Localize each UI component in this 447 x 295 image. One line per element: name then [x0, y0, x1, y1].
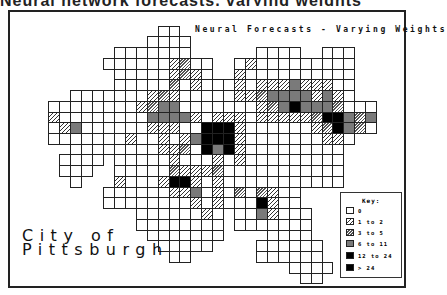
legend-swatch-solid-black-icon [346, 264, 354, 271]
grid-cell [343, 133, 355, 145]
grid-cell [92, 154, 104, 166]
legend-label: > 24 [358, 265, 375, 271]
legend-swatch-light-hatch-icon [346, 218, 354, 225]
legend-swatch-dense-hatch-icon [346, 229, 354, 236]
legend-item-1: 1 to 2 [346, 217, 384, 226]
grid-cell [212, 230, 224, 242]
legend-item-0: 0 [346, 206, 362, 215]
grid-cell [179, 251, 191, 263]
legend-label: 1 to 2 [358, 219, 384, 225]
grid-cell [365, 122, 377, 134]
legend-swatch-white-icon [346, 207, 354, 214]
map-title: Neural Forecasts - Varying Weights [195, 25, 447, 34]
grid-cell [332, 176, 344, 188]
legend-label: 6 to 11 [358, 241, 388, 247]
legend-key: Key: 0 1 to 2 3 to 5 6 to 11 12 to 24 > … [340, 192, 402, 278]
grid-cell [201, 240, 213, 252]
grid-cell [322, 262, 334, 274]
legend-label: 0 [358, 208, 362, 214]
legend-item-5: > 24 [346, 263, 375, 272]
legend-item-3: 6 to 11 [346, 239, 388, 248]
grid-cell [81, 165, 93, 177]
legend-title: Key: [362, 197, 380, 204]
legend-item-4: 12 to 24 [346, 251, 393, 260]
city-label: City of Pittsburgh [22, 229, 169, 257]
city-label-line-2: Pittsburgh [22, 243, 169, 257]
legend-swatch-gray-icon [346, 240, 354, 247]
legend-swatch-black-icon [346, 252, 354, 259]
legend-item-2: 3 to 5 [346, 228, 384, 237]
legend-label: 12 to 24 [358, 253, 393, 259]
legend-label: 3 to 5 [358, 230, 384, 236]
grid-cell [311, 273, 323, 285]
grid-cell [70, 176, 82, 188]
